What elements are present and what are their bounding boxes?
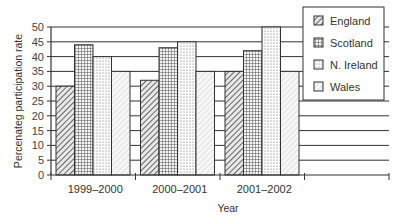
bar-england: [141, 80, 160, 175]
bar-chart: 05101520253035404550 1999–20002000–20012…: [0, 0, 404, 224]
x-category-label: 1999–2000: [68, 183, 123, 195]
y-tick-label: 25: [32, 95, 44, 107]
bar-england: [225, 71, 244, 175]
x-category-label: 2001–2002: [237, 183, 292, 195]
y-tick-label: 0: [38, 169, 44, 181]
y-axis-ticks: 05101520253035404550: [32, 21, 51, 181]
bar-n-ireland: [262, 27, 281, 175]
y-tick-label: 20: [32, 110, 44, 122]
legend-label: England: [330, 15, 370, 27]
legend-label: Scotland: [330, 37, 373, 49]
bar-wales: [281, 71, 300, 175]
legend-swatch: [314, 60, 323, 69]
legend-swatch: [314, 16, 323, 25]
y-tick-label: 35: [32, 65, 44, 77]
legend-label: Wales: [330, 81, 361, 93]
bar-scotland: [244, 51, 263, 175]
x-axis-title: Year: [217, 202, 239, 214]
x-axis-categories: 1999–20002000–20012001–2002: [68, 183, 292, 195]
legend-label: N. Ireland: [330, 59, 378, 71]
y-tick-label: 5: [38, 154, 44, 166]
x-category-label: 2000–2001: [152, 183, 207, 195]
bar-scotland: [159, 48, 178, 175]
y-tick-label: 30: [32, 80, 44, 92]
bar-wales: [112, 71, 131, 175]
y-tick-label: 50: [32, 21, 44, 33]
y-tick-label: 10: [32, 139, 44, 151]
legend: EnglandScotlandN. IrelandWales: [303, 7, 384, 100]
y-tick-label: 45: [32, 36, 44, 48]
bar-n-ireland: [178, 42, 197, 175]
bars: [56, 27, 299, 175]
y-axis-title: Percenateg participation rate: [12, 34, 24, 168]
bar-wales: [196, 71, 215, 175]
legend-swatch: [314, 38, 323, 47]
legend-swatch: [314, 82, 323, 91]
bar-scotland: [75, 45, 94, 175]
bar-england: [56, 86, 75, 175]
y-tick-label: 40: [32, 51, 44, 63]
bar-n-ireland: [93, 57, 112, 175]
y-tick-label: 15: [32, 125, 44, 137]
